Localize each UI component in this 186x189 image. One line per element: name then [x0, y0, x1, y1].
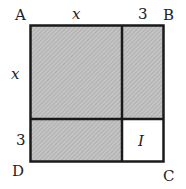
vertex-B: B — [163, 6, 174, 24]
shaded-region-bottom — [31, 119, 122, 161]
label-top-x: x — [72, 5, 81, 23]
label-left-3: 3 — [16, 131, 26, 149]
square-diagram: A B C D x 3 x 3 I — [0, 0, 186, 189]
vertex-A: A — [14, 6, 26, 24]
label-top-3: 3 — [138, 5, 148, 23]
shaded-region-right — [122, 26, 163, 119]
label-left-x: x — [11, 65, 20, 83]
shaded-region-large — [31, 26, 122, 119]
label-region-I: I — [137, 132, 145, 150]
vertex-C: C — [163, 167, 174, 185]
vertex-D: D — [12, 162, 24, 180]
